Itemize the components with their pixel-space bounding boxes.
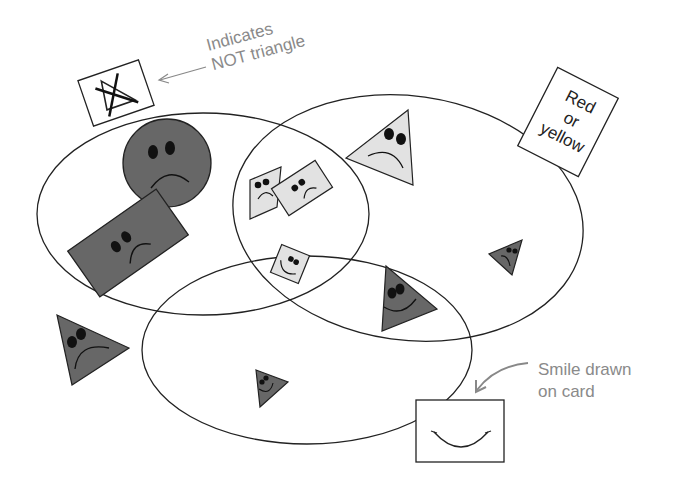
not-triangle-card <box>78 60 154 126</box>
smile-annotation-line-2: on card <box>538 382 595 401</box>
arrow-icon <box>159 67 206 83</box>
light-triangle-frown <box>346 110 413 185</box>
red-or-yellow-card: Red or yellow <box>518 67 619 176</box>
dark-triangle-frown-small <box>489 240 522 275</box>
dark-triangle-frown-outside <box>57 315 129 385</box>
dark-triangle-smile-small <box>256 370 288 407</box>
light-square-smile <box>270 244 309 283</box>
smile-card <box>416 400 504 462</box>
dark-circle-frown <box>123 119 211 207</box>
smile-annotation-line-1: Smile drawn <box>538 360 632 379</box>
curved-arrow-icon <box>476 363 528 392</box>
venn-diagram: Indicates NOT triangle Red or yellow Smi… <box>0 0 683 488</box>
not-triangle-annotation: Indicates NOT triangle <box>204 12 307 75</box>
